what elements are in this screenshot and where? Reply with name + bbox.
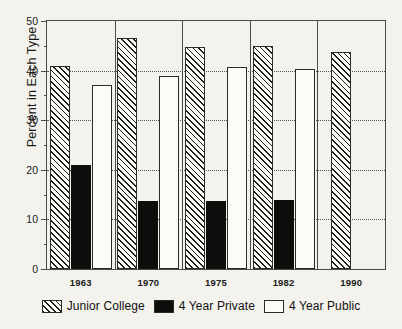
y-axis-minor-tick <box>44 195 48 196</box>
y-axis-tick <box>41 219 47 220</box>
bar-4-year-public-1970 <box>159 76 179 269</box>
x-axis-tick-label: 1990 <box>340 277 362 288</box>
y-axis-minor-tick <box>44 46 48 47</box>
legend-label: Junior College <box>67 299 145 313</box>
y-axis-tick <box>41 71 47 72</box>
legend-item-4-year-public[interactable]: 4 Year Public <box>264 299 360 313</box>
y-axis-tick <box>41 21 47 22</box>
panel-separator <box>182 21 183 269</box>
panel-separator <box>317 21 318 269</box>
x-axis-tick-label: 1982 <box>273 277 295 288</box>
bar-junior-college-1963 <box>50 66 70 269</box>
bar-junior-college-1990 <box>331 52 351 269</box>
y-axis-minor-tick <box>44 244 48 245</box>
y-axis-tick-label: 50 <box>26 16 38 27</box>
legend-item-junior-college[interactable]: Junior College <box>42 299 145 313</box>
y-axis-tick <box>41 269 47 270</box>
y-axis-tick-label: 40 <box>26 65 38 76</box>
hatch-swatch <box>42 300 62 313</box>
chart-legend: Junior College4 Year Private4 Year Publi… <box>0 299 402 313</box>
legend-label: 4 Year Private <box>179 299 255 313</box>
bar-4-year-public-1982 <box>295 69 315 269</box>
solid-black-swatch <box>154 300 174 313</box>
y-axis-tick <box>41 170 47 171</box>
checkerboard-swatch <box>264 300 284 313</box>
bar-junior-college-1975 <box>185 47 205 269</box>
legend-label: 4 Year Public <box>289 299 360 313</box>
bar-junior-college-1982 <box>253 46 273 269</box>
plot-inner: 0102030405019631970197519821990 <box>47 21 385 269</box>
y-axis-minor-tick <box>44 95 48 96</box>
y-axis-minor-tick <box>44 145 48 146</box>
bar-4-year-private-1982 <box>274 200 294 269</box>
plot-area: 0102030405019631970197519821990 <box>46 20 386 270</box>
x-axis-tick-label: 1963 <box>70 277 92 288</box>
bar-4-year-public-1975 <box>227 67 247 269</box>
y-axis-tick-label: 0 <box>32 264 38 275</box>
y-axis-tick-label: 10 <box>26 214 38 225</box>
y-axis-tick-label: 20 <box>26 165 38 176</box>
panel-separator <box>250 21 251 269</box>
bar-junior-college-1970 <box>117 38 137 269</box>
panel-separator <box>115 21 116 269</box>
bar-4-year-private-1975 <box>206 201 226 269</box>
bar-4-year-public-1963 <box>92 85 112 269</box>
bar-4-year-private-1970 <box>138 201 158 269</box>
legend-item-4-year-private[interactable]: 4 Year Private <box>154 299 255 313</box>
y-axis-tick <box>41 120 47 121</box>
y-axis-tick-label: 30 <box>26 115 38 126</box>
bar-4-year-private-1963 <box>71 165 91 269</box>
bar-chart-figure: Percent in Each Type 0102030405019631970… <box>0 0 402 329</box>
y-axis-title: Percent in Each Type <box>23 0 41 182</box>
x-axis-tick-label: 1975 <box>205 277 227 288</box>
x-axis-tick-label: 1970 <box>137 277 159 288</box>
